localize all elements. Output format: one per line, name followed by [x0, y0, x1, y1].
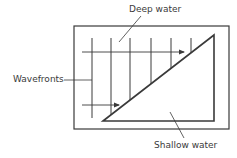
shallow-water-region — [103, 35, 214, 121]
deep-water-label: Deep water — [129, 5, 181, 14]
shallow-water-label: Shallow water — [154, 141, 217, 150]
wavefronts-label: Wavefronts — [13, 75, 64, 84]
